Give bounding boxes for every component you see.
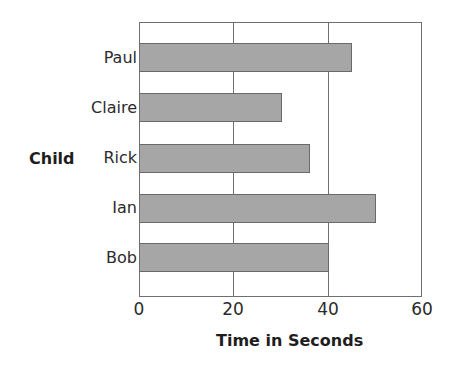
plot-area bbox=[139, 22, 422, 297]
bar-bob bbox=[140, 243, 329, 272]
bar-chart: Paul Claire Rick Ian Bob Child 0 20 40 6… bbox=[0, 0, 455, 367]
x-tick: 40 bbox=[317, 299, 339, 319]
category-label: Ian bbox=[112, 198, 137, 218]
x-tick: 60 bbox=[411, 299, 433, 319]
category-label: Claire bbox=[91, 98, 137, 118]
bar-rick bbox=[140, 144, 310, 173]
x-tick: 20 bbox=[222, 299, 244, 319]
bar-ian bbox=[140, 194, 376, 223]
category-label: Bob bbox=[106, 248, 137, 268]
category-label: Rick bbox=[103, 148, 137, 168]
bar-claire bbox=[140, 93, 282, 122]
bar-paul bbox=[140, 43, 352, 72]
y-axis-label: Child bbox=[29, 149, 75, 168]
x-axis-label: Time in Seconds bbox=[216, 331, 363, 350]
category-label: Paul bbox=[104, 48, 137, 68]
x-tick: 0 bbox=[134, 299, 145, 319]
